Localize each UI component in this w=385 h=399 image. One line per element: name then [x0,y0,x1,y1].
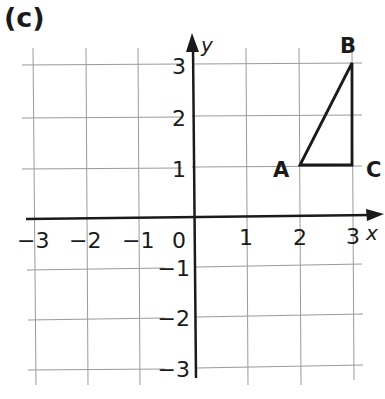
coordinate-diagram: (c) [0,0,385,399]
x-tick-label: 1 [239,225,253,250]
x-tick-label: 0 [172,228,186,253]
vertex-label-c: C [366,158,381,182]
y-tick-label: −1 [158,256,190,281]
x-axis-arrow-icon [366,209,384,221]
x-tick-label: −1 [122,228,154,253]
x-tick-label: 3 [346,224,360,249]
x-tick-labels: −3 −2 −1 0 1 2 3 [17,224,360,253]
x-axis-label: x [365,221,378,245]
y-tick-label: 2 [172,106,186,131]
vertex-label-a: A [273,158,290,182]
x-axis [26,209,384,221]
x-tick-label: 2 [293,225,307,250]
y-tick-label: −3 [158,357,190,382]
y-axis-label: y [200,33,214,57]
coordinate-plane: y x −3 −2 −1 0 1 2 3 3 2 1 −1 −2 −3 A B … [0,0,385,399]
y-tick-label: −2 [158,306,190,331]
y-tick-label: 3 [172,54,186,79]
vertex-label-b: B [340,34,356,58]
x-tick-label: −2 [69,228,101,253]
y-tick-label: 1 [172,157,186,182]
y-axis-arrow-icon [186,33,199,52]
triangle-abc: A B C [273,34,381,182]
x-tick-label: −3 [17,228,49,253]
